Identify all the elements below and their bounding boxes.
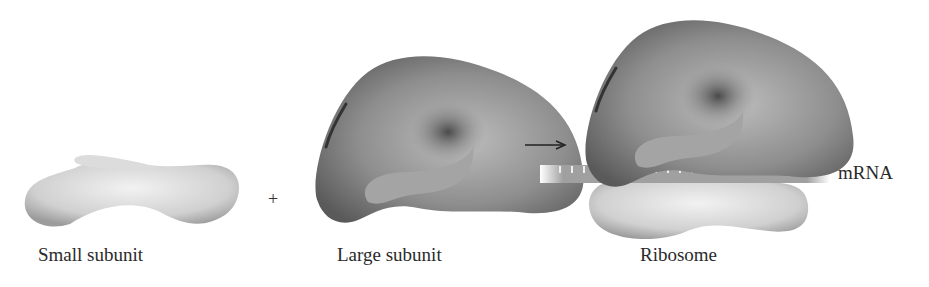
ribosome-large-subunit [585, 20, 853, 186]
mrna-label: mRNA [838, 162, 893, 184]
ribosome-small-subunit [589, 179, 808, 239]
large-subunit-shape [315, 56, 583, 222]
small-subunit-label: Small subunit [38, 244, 143, 266]
ribosome-label: Ribosome [640, 244, 717, 266]
large-subunit-label: Large subunit [337, 244, 442, 266]
plus-sign: + [268, 189, 278, 209]
small-subunit-shape [25, 155, 239, 227]
